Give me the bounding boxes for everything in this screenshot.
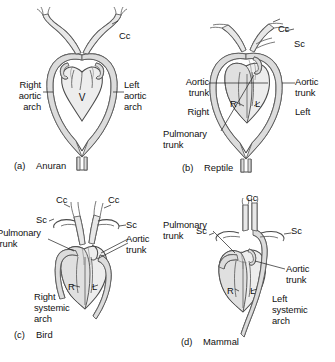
label-common-carotid: Cc bbox=[246, 192, 257, 203]
caption-letter: (d) bbox=[181, 336, 203, 347]
caption-bird: (c)Bird bbox=[14, 329, 53, 340]
label-aortic-trunk: Aortictrunk bbox=[126, 233, 149, 255]
label-left-aortic-arch: Leftaorticarch bbox=[124, 79, 146, 112]
label-subclavian-right: Sc bbox=[291, 225, 302, 236]
caption-letter: (c) bbox=[14, 329, 36, 340]
label-left-ventricle: L bbox=[250, 285, 255, 296]
label-right-ventricle: R bbox=[230, 98, 237, 109]
label-common-carotid: Cc bbox=[278, 23, 289, 34]
label-subclavian-right: Sc bbox=[126, 219, 137, 230]
caption-mammal: (d)Mammal bbox=[181, 336, 239, 347]
caption-letter: (a) bbox=[14, 160, 36, 171]
label-common-carotid-right: Cc bbox=[108, 194, 119, 205]
panel-reptile: Aortictrunk Aortictrunk Right Left Pulmo… bbox=[168, 0, 335, 181]
label-pulmonary-trunk: Pulmonarytrunk bbox=[163, 128, 207, 150]
caption-letter: (b) bbox=[182, 162, 204, 173]
label-right-side: Right bbox=[165, 106, 209, 117]
caption-anuran: (a)Anuran bbox=[14, 160, 66, 171]
label-right-ventricle: R bbox=[68, 281, 75, 292]
label-pulmonary-trunk: Pulmonarytrunk bbox=[163, 219, 207, 241]
label-aortic-trunk: Aortictrunk bbox=[286, 263, 309, 285]
label-right-aortic-arch: Rightaorticarch bbox=[0, 79, 41, 112]
label-left-ventricle: L bbox=[255, 98, 260, 109]
panel-mammal: Cc Sc Sc Pulmonarytrunk Aortictrunk Left… bbox=[167, 181, 334, 362]
label-pulmonary-trunk: Pulmonarytrunk bbox=[0, 227, 41, 249]
label-right-ventricle: R bbox=[227, 285, 234, 296]
label-ventricle: V bbox=[74, 92, 90, 103]
caption-reptile: (b)Reptile bbox=[182, 162, 233, 173]
figure-vertebrate-hearts: Rightaorticarch Leftaorticarch Cc V (a)A… bbox=[0, 0, 335, 362]
label-common-carotid-left: Cc bbox=[56, 194, 67, 205]
label-aortic-trunk-left: Aortictrunk bbox=[165, 76, 209, 98]
caption-name: Reptile bbox=[204, 162, 233, 173]
caption-name: Bird bbox=[36, 329, 53, 340]
caption-name: Mammal bbox=[203, 336, 239, 347]
panel-anuran: Rightaorticarch Leftaorticarch Cc V (a)A… bbox=[0, 0, 167, 181]
label-left-ventricle: L bbox=[92, 281, 97, 292]
label-aortic-trunk-right: Aortictrunk bbox=[295, 76, 318, 98]
label-left-systemic-arch: Leftsystemicarch bbox=[272, 293, 308, 326]
label-subclavian-left: Sc bbox=[36, 214, 47, 225]
label-common-carotid: Cc bbox=[119, 30, 130, 41]
label-left-side: Left bbox=[295, 106, 310, 117]
label-right-systemic-arch: Rightsystemicarch bbox=[34, 291, 70, 324]
label-subclavian: Sc bbox=[294, 38, 305, 49]
caption-name: Anuran bbox=[36, 160, 66, 171]
panel-bird: Cc Cc Sc Sc Pulmonarytrunk Aortictrunk R… bbox=[0, 181, 167, 362]
